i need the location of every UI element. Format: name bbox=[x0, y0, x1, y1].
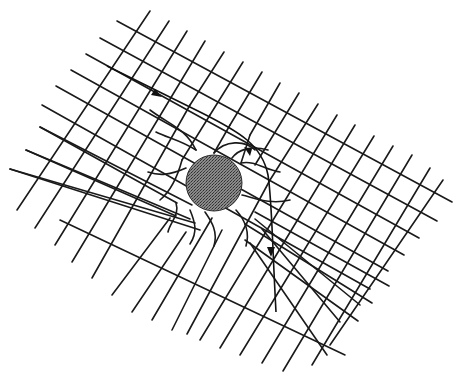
spacetime-grid-diagram bbox=[0, 0, 459, 380]
mass-body bbox=[186, 155, 242, 211]
